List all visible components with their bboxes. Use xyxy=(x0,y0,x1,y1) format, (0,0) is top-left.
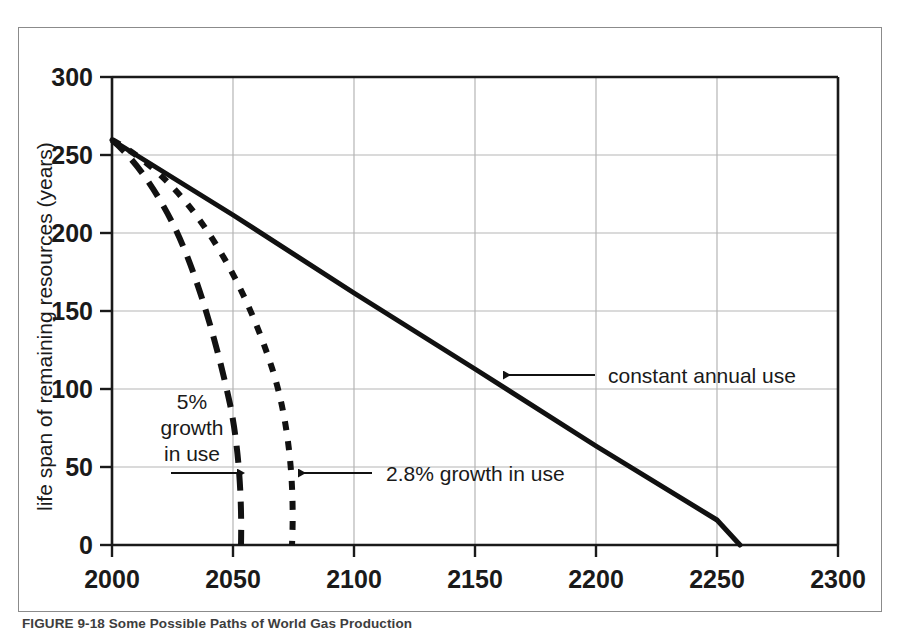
figure-caption-label: FIGURE 9-18 xyxy=(22,616,105,631)
y-tick-label-150: 150 xyxy=(51,297,93,325)
annotation-label-2-8-percent-growth: 2.8% growth in use xyxy=(386,462,565,485)
x-tick-label-2000: 2000 xyxy=(84,565,140,593)
x-tick-label-2250: 2250 xyxy=(689,565,745,593)
x-tick-label-2050: 2050 xyxy=(205,565,261,593)
y-axis-title: life span of remaining resources (years) xyxy=(33,142,56,511)
y-tick-label-250: 250 xyxy=(51,141,93,169)
figure-caption: FIGURE 9-18 Some Possible Paths of World… xyxy=(22,616,722,632)
annotation-label-constant-annual-use: constant annual use xyxy=(608,364,796,387)
annotation-label-5-percent-line3: in use xyxy=(164,442,220,465)
x-axis-ticks xyxy=(112,545,838,557)
y-tick-label-200: 200 xyxy=(51,219,93,247)
x-tick-label-2300: 2300 xyxy=(810,565,866,593)
annotation-label-5-percent-line2: growth xyxy=(160,416,223,439)
y-tick-label-100: 100 xyxy=(51,375,93,403)
x-tick-label-2100: 2100 xyxy=(326,565,382,593)
x-tick-label-2200: 2200 xyxy=(568,565,624,593)
y-tick-label-50: 50 xyxy=(65,453,93,481)
y-tick-label-300: 300 xyxy=(51,63,93,91)
annotation-label-5-percent-line1: 5% xyxy=(177,390,207,413)
figure-caption-text: Some Possible Paths of World Gas Product… xyxy=(109,616,412,631)
x-tick-label-2150: 2150 xyxy=(447,565,503,593)
y-tick-label-0: 0 xyxy=(79,531,93,559)
y-axis-ticks xyxy=(100,77,112,545)
